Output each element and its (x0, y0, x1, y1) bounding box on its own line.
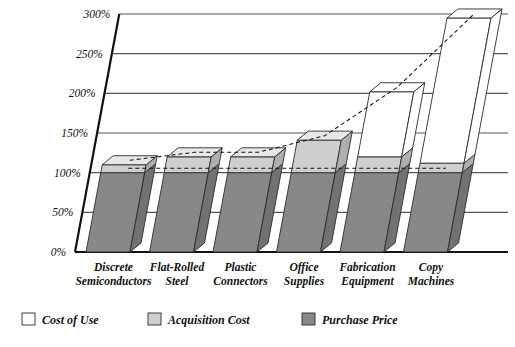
chart-container: 0%50%100%150%200%250%300% DiscreteSemico… (0, 0, 515, 347)
legend-swatch[interactable] (302, 313, 315, 325)
legend-label[interactable]: Cost of Use (42, 313, 99, 327)
legend-label[interactable]: Acquisition Cost (167, 313, 250, 327)
legend-swatch[interactable] (148, 313, 161, 325)
category-label: Plastic (225, 261, 257, 273)
legend-label[interactable]: Purchase Price (322, 313, 398, 327)
category-label: Copy (419, 261, 444, 274)
category-label: Semiconductors (75, 275, 152, 287)
category-label: Office (289, 261, 318, 274)
category-label: Supplies (284, 275, 325, 288)
y-tick-label: 250% (76, 48, 103, 60)
y-tick-label: 150% (61, 127, 88, 139)
stacked-bar-chart: 0%50%100%150%200%250%300% DiscreteSemico… (0, 0, 515, 347)
y-tick-label: 200% (69, 87, 96, 99)
category-label: Steel (166, 275, 190, 287)
category-label: Connectors (213, 275, 268, 287)
bar-segment (228, 157, 275, 173)
bar-segment (355, 157, 402, 173)
y-tick-label: 300% (82, 8, 110, 20)
category-label: Machines (407, 275, 455, 287)
category-label: Discrete (93, 261, 133, 273)
bar-segment (164, 157, 211, 173)
y-tick-label: 100% (54, 167, 81, 179)
bar-segment (101, 165, 146, 173)
y-tick-label: 50% (52, 206, 73, 218)
category-label: Flat-Rolled (149, 261, 205, 273)
category-label: Equipment (340, 275, 394, 288)
category-label: Fabrication (338, 261, 395, 273)
y-tick-label: 0% (51, 246, 66, 258)
legend-swatch[interactable] (22, 313, 35, 325)
chart-legend: Cost of UseAcquisition CostPurchase Pric… (22, 313, 398, 327)
